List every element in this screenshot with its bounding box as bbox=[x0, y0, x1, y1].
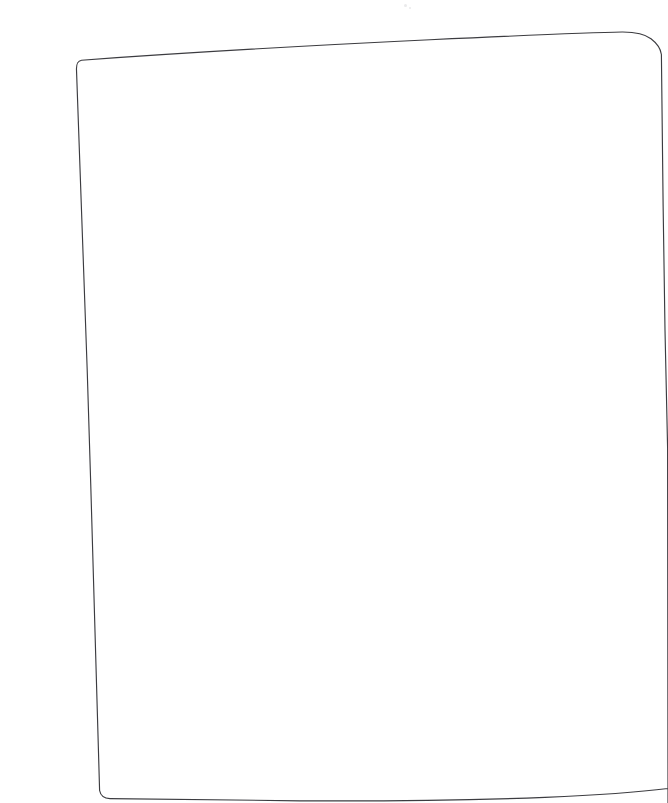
scan-speck-2 bbox=[409, 7, 411, 9]
scan-viewport bbox=[0, 0, 668, 803]
scanned-page-graphic bbox=[0, 0, 668, 803]
scan-speck-1 bbox=[404, 4, 407, 7]
page-surface bbox=[76, 32, 668, 803]
